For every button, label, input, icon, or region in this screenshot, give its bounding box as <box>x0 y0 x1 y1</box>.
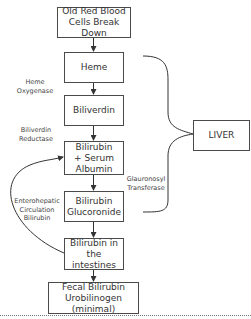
connector-lines <box>0 0 251 319</box>
label-biliverdin-reductase: Biliverdin Reductase <box>12 126 60 143</box>
node-label: Old Red Blood Cells Break Down <box>58 6 130 39</box>
node-label: Bilirubin Glucoronide <box>67 196 121 218</box>
node-label: Fecal Bilirubin Urobilinogen (minimal) <box>49 282 138 315</box>
node-bilirubin-glucoronide: Bilirubin Glucoronide <box>64 191 124 222</box>
label-enterohepatic-circulation: Enterohepatic Circulation Bilirubin <box>12 197 62 223</box>
label-glucuronosyl-transferase: Glauronosyl Transferase <box>122 175 170 192</box>
label-heme-oxygenase: Heme Oxygenase <box>14 78 56 95</box>
node-bilirubin-serum-albumin: Bilirubin + Serum Albumin <box>64 141 124 175</box>
node-fecal-bilirubin: Fecal Bilirubin Urobilinogen (minimal) <box>48 282 139 314</box>
node-biliverdin: Biliverdin <box>64 95 124 126</box>
node-old-red-blood-cells: Old Red Blood Cells Break Down <box>57 7 131 38</box>
node-bilirubin-intestines: Bilirubin in the intestines <box>64 238 124 270</box>
node-label: Biliverdin <box>73 105 115 116</box>
node-label: LIVER <box>209 130 235 141</box>
node-heme: Heme <box>64 52 124 83</box>
node-label: Bilirubin in the intestines <box>65 238 123 271</box>
dotted-divider <box>0 315 251 316</box>
node-label: Bilirubin + Serum Albumin <box>74 142 114 175</box>
node-label: Heme <box>81 62 108 73</box>
node-liver: LIVER <box>193 120 250 151</box>
